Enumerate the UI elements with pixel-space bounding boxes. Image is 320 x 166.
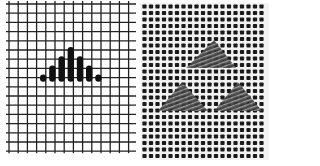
canvas-hole	[162, 115, 166, 119]
canvas-hole	[253, 89, 257, 93]
canvas-hole	[201, 89, 205, 93]
canvas-hole	[188, 24, 192, 28]
canvas-hole	[168, 24, 172, 28]
canvas-hole	[233, 50, 237, 54]
canvas-hole	[155, 141, 159, 145]
canvas-hole	[142, 24, 146, 28]
canvas-hole	[142, 30, 146, 34]
canvas-hole	[155, 69, 159, 73]
canvas-hole	[162, 50, 166, 54]
canvas-hole	[142, 102, 146, 106]
canvas-hole	[227, 76, 231, 80]
canvas-hole	[227, 24, 231, 28]
canvas-hole	[188, 76, 192, 80]
canvas-hole	[201, 121, 205, 125]
canvas-hole	[227, 11, 231, 15]
canvas-hole	[240, 11, 244, 15]
canvas-hole	[162, 89, 166, 93]
canvas-hole	[246, 56, 250, 60]
canvas-hole	[162, 37, 166, 41]
canvas-hole	[220, 24, 224, 28]
canvas-hole	[142, 63, 146, 67]
canvas-hole	[181, 121, 185, 125]
canvas-hole	[253, 69, 257, 73]
canvas-hole	[233, 37, 237, 41]
canvas-hole	[214, 11, 218, 15]
canvas-hole	[207, 11, 211, 15]
canvas-hole	[175, 147, 179, 151]
canvas-hole	[207, 108, 211, 112]
canvas-hole	[227, 115, 231, 119]
canvas-hole	[194, 154, 198, 158]
canvas-hole	[168, 89, 172, 93]
canvas-hole	[253, 115, 257, 119]
canvas-hole	[246, 128, 250, 132]
canvas-hole	[162, 17, 166, 21]
canvas-hole	[155, 115, 159, 119]
canvas-hole	[194, 89, 198, 93]
canvas-hole	[194, 141, 198, 145]
canvas-hole	[168, 147, 172, 151]
canvas-hole	[227, 30, 231, 34]
canvas-hole	[194, 4, 198, 8]
canvas-hole	[220, 17, 224, 21]
canvas-hole	[149, 76, 153, 80]
canvas-hole	[246, 63, 250, 67]
canvas-hole	[214, 121, 218, 125]
canvas-hole	[155, 128, 159, 132]
canvas-hole	[227, 128, 231, 132]
canvas-hole	[142, 128, 146, 132]
canvas-hole	[155, 95, 159, 99]
canvas-hole	[201, 30, 205, 34]
canvas-hole	[194, 24, 198, 28]
canvas-hole	[227, 69, 231, 73]
canvas-hole	[220, 76, 224, 80]
canvas-hole	[149, 147, 153, 151]
canvas-hole	[201, 4, 205, 8]
canvas-hole	[194, 115, 198, 119]
canvas-hole	[149, 82, 153, 86]
stitch-mark	[40, 75, 46, 82]
canvas-hole	[207, 115, 211, 119]
canvas-hole	[175, 56, 179, 60]
canvas-hole	[240, 115, 244, 119]
canvas-hole	[149, 128, 153, 132]
canvas-hole	[188, 50, 192, 54]
canvas-hole	[194, 121, 198, 125]
canvas-hole	[194, 128, 198, 132]
canvas-hole	[162, 69, 166, 73]
canvas-hole	[253, 141, 257, 145]
canvas-hole	[175, 141, 179, 145]
canvas-hole	[149, 24, 153, 28]
canvas-hole	[253, 121, 257, 125]
canvas-hole	[155, 89, 159, 93]
canvas-hole	[233, 121, 237, 125]
canvas-hole	[168, 30, 172, 34]
canvas-hole	[149, 115, 153, 119]
canvas-hole	[201, 43, 205, 47]
canvas-hole	[162, 128, 166, 132]
canvas-hole	[175, 121, 179, 125]
canvas-hole	[253, 82, 257, 86]
canvas-hole	[233, 4, 237, 8]
canvas-hole	[227, 141, 231, 145]
canvas-hole	[253, 63, 257, 67]
canvas-hole	[194, 76, 198, 80]
canvas-hole	[207, 76, 211, 80]
canvas-hole	[162, 121, 166, 125]
canvas-hole	[253, 24, 257, 28]
canvas-hole	[201, 76, 205, 80]
canvas-hole	[207, 102, 211, 106]
canvas-hole	[142, 141, 146, 145]
canvas-hole	[142, 134, 146, 138]
canvas-hole	[194, 82, 198, 86]
canvas-hole	[168, 128, 172, 132]
canvas-photo-panel	[136, 0, 273, 166]
canvas-hole	[253, 134, 257, 138]
canvas-hole	[168, 4, 172, 8]
canvas-hole	[194, 30, 198, 34]
canvas-hole	[162, 95, 166, 99]
canvas-hole	[175, 82, 179, 86]
needlepoint-canvas-photo	[136, 0, 273, 166]
canvas-hole	[240, 154, 244, 158]
